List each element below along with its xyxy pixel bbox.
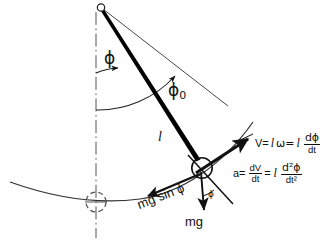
pendulum-diagram: ϕ ϕ0 l ϕ mg mg sin ϕ V=lω=l dϕ dt a= dV … (0, 0, 322, 244)
angle-phi-bob-label: ϕ (208, 190, 214, 199)
angle-phi0-label: ϕ0 (168, 82, 186, 99)
angle-phi0-subscript: 0 (179, 89, 186, 102)
acceleration-lhs: a= (233, 168, 246, 179)
velocity-l-second: l (296, 137, 301, 149)
acceleration-denominator-two: dt² (285, 175, 298, 185)
angle-phi0-symbol: ϕ (168, 80, 179, 100)
weight-label: mg (185, 215, 203, 228)
acceleration-l: l (273, 167, 278, 179)
velocity-denominator: dt (307, 145, 317, 155)
acceleration-fraction-one: dV dt (249, 163, 263, 184)
acceleration-denominator-one: dt (250, 174, 260, 184)
pivot-point (97, 4, 104, 11)
acceleration-equation: a= dV dt =l d²ϕ dt² (233, 162, 302, 185)
velocity-numerator: dϕ (304, 132, 320, 145)
acceleration-fraction-two: d²ϕ dt² (281, 162, 302, 185)
omega-symbol: ω= (276, 138, 294, 149)
angle-phi-arc (96, 68, 118, 73)
velocity-equation: V=lω=l dϕ dt (255, 132, 320, 155)
diagram-canvas (0, 0, 322, 244)
angle-phi-label: ϕ (104, 50, 115, 67)
amplitude-line (103, 9, 228, 106)
velocity-fraction: dϕ dt (304, 132, 320, 155)
rod-length-label: l (158, 130, 162, 144)
velocity-l-first: l (270, 137, 275, 149)
acceleration-numerator-two: d²ϕ (281, 162, 302, 175)
velocity-lhs: V= (255, 138, 269, 149)
trajectory-arc (10, 122, 253, 201)
acceleration-equals: = (264, 168, 270, 179)
